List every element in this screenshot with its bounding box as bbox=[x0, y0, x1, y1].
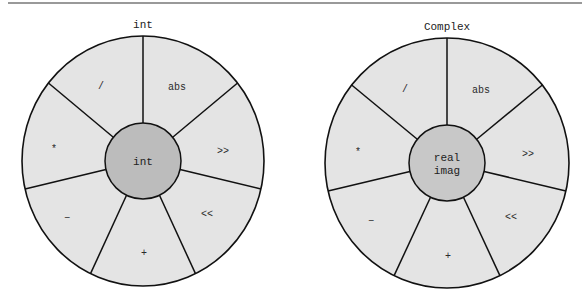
wheel-title: Complex bbox=[424, 21, 471, 33]
wheel-title: int bbox=[133, 19, 153, 31]
type-wheel-diagram: int int abs >> << + − * / Complex real i… bbox=[0, 0, 588, 304]
segment-label-subtract: − bbox=[368, 216, 374, 227]
int-wheel: int int abs >> << + − * / bbox=[22, 19, 264, 286]
segment-label-multiply: * bbox=[51, 144, 57, 155]
core-label-group: int bbox=[133, 156, 153, 168]
segment-label-add: + bbox=[141, 248, 147, 259]
segment-label-abs: abs bbox=[168, 82, 186, 93]
segment-label-divide: / bbox=[98, 81, 104, 92]
segment-label-subtract: − bbox=[64, 213, 70, 224]
segment-label-shift-right: >> bbox=[522, 149, 534, 160]
segment-label-abs: abs bbox=[472, 85, 490, 96]
core-label-real: real bbox=[434, 152, 460, 164]
segment-label-shift-left: << bbox=[505, 212, 517, 223]
segment-label-add: + bbox=[445, 251, 451, 262]
core-label-imag: imag bbox=[434, 165, 460, 177]
complex-wheel: Complex real imag abs >> << + − * / bbox=[325, 21, 569, 288]
segment-label-shift-left: << bbox=[201, 209, 213, 220]
core-label-group: real imag bbox=[434, 152, 460, 177]
segment-label-divide: / bbox=[402, 84, 408, 95]
core-label: int bbox=[133, 156, 153, 168]
segment-label-shift-right: >> bbox=[217, 146, 229, 157]
segment-label-multiply: * bbox=[355, 147, 361, 158]
